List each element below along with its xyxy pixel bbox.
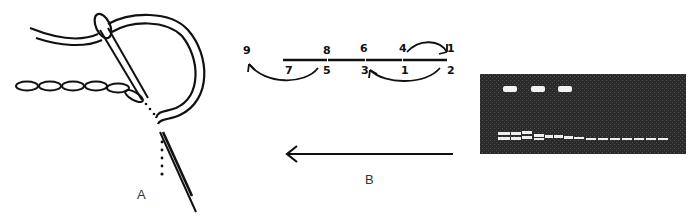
svg-text:9: 9 bbox=[243, 44, 251, 57]
svg-text:6: 6 bbox=[360, 42, 368, 55]
arrow-5-to-9 bbox=[249, 64, 318, 80]
dotted-guide bbox=[160, 141, 163, 176]
panel-b-stitch-sequence: 9 8 6 4 1 7 5 3 1 2 B bbox=[235, 30, 475, 200]
svg-text:2: 2 bbox=[447, 64, 455, 77]
stitch-sequence-diagram: 9 8 6 4 1 7 5 3 1 2 bbox=[235, 30, 475, 200]
panel-c-fabric-sample bbox=[478, 72, 690, 158]
direction-arrow-left-icon bbox=[287, 146, 453, 162]
panel-a-needle-illustration: A bbox=[0, 0, 240, 224]
svg-text:3: 3 bbox=[361, 64, 369, 77]
fabric-sample-photo bbox=[478, 72, 690, 158]
svg-text:1: 1 bbox=[447, 42, 455, 55]
needle-stitch-drawing bbox=[0, 0, 240, 224]
panel-label-b: B bbox=[365, 172, 374, 187]
svg-text:5: 5 bbox=[323, 64, 331, 77]
arrow-4-to-1 bbox=[407, 42, 447, 52]
svg-text:8: 8 bbox=[323, 44, 331, 57]
svg-text:1: 1 bbox=[401, 64, 409, 77]
svg-text:4: 4 bbox=[399, 42, 407, 55]
panel-label-a: A bbox=[137, 187, 146, 202]
svg-text:7: 7 bbox=[285, 64, 293, 77]
top-stitches bbox=[503, 86, 572, 92]
stitch-chain bbox=[16, 82, 145, 105]
